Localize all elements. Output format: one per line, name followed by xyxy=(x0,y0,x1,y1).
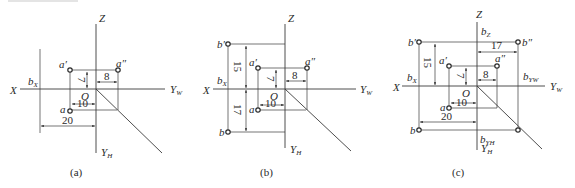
dim-7-label: 7 xyxy=(76,77,88,83)
b-double-prime-label: b″ xyxy=(522,36,533,48)
dim-10-label: 10 xyxy=(456,96,468,108)
dim-7-label: 7 xyxy=(455,73,467,79)
byw-label: bYW xyxy=(523,70,539,84)
point-b xyxy=(417,128,421,132)
caption-c: (c) xyxy=(452,166,465,179)
a-label: a xyxy=(249,103,255,115)
bx-label: bX xyxy=(28,75,39,89)
bz-label: bZ xyxy=(481,25,491,39)
a-prime-label: a′ xyxy=(439,54,448,66)
point-b-diagonal xyxy=(516,128,520,132)
dim-7-label: 7 xyxy=(265,76,277,82)
diagonal-45-line xyxy=(96,89,162,153)
dim-8-label: 8 xyxy=(483,68,489,80)
point-b-prime xyxy=(226,42,230,46)
point-b-double-prime xyxy=(516,40,520,44)
x-axis-label: X xyxy=(202,84,211,96)
point-a-prime xyxy=(68,68,72,72)
a-double-prime-label: a″ xyxy=(495,52,506,64)
yh-axis-label: YH xyxy=(101,146,113,160)
dim-15-label: 15 xyxy=(232,61,244,73)
dim-17-label: 17 xyxy=(232,104,244,116)
panel-b: Z X YW YH O bX b′ a′ a″ a b 15 7 8 17 10… xyxy=(202,12,373,179)
diagonal-45-line xyxy=(285,89,351,151)
panel-c: Z X YW YH O bZ bX bYW bYH b′ b″ a′ a″ a … xyxy=(392,8,563,179)
z-axis-label: Z xyxy=(99,12,106,24)
b-prime-label: b′ xyxy=(408,36,417,48)
dim-10-label: 10 xyxy=(265,97,277,109)
caption-b: (b) xyxy=(260,166,273,179)
point-a xyxy=(68,109,72,113)
dim-20-label: 20 xyxy=(441,110,453,122)
z-axis-label: Z xyxy=(288,12,295,24)
dim-20-label: 20 xyxy=(62,114,74,126)
dim-10-label: 10 xyxy=(77,97,89,109)
a-double-prime-label: a″ xyxy=(305,55,316,67)
b-prime-label: b′ xyxy=(217,38,226,50)
panel-a: Z X YW YH O bX a′ a″ a 7 8 10 20 (a) xyxy=(9,12,183,179)
a-prime-label: a′ xyxy=(59,58,68,70)
b-label: b xyxy=(219,126,225,138)
yw-axis-label: YW xyxy=(170,83,183,97)
yw-axis-label: YW xyxy=(550,80,563,94)
point-b xyxy=(226,130,230,134)
b-label: b xyxy=(410,124,416,136)
point-a-prime xyxy=(447,64,451,68)
a-prime-label: a′ xyxy=(249,56,258,68)
yh-axis-label: YH xyxy=(290,143,302,157)
point-a xyxy=(256,108,260,112)
point-b-prime xyxy=(417,40,421,44)
bx-label: bX xyxy=(407,71,418,85)
z-axis-label: Z xyxy=(476,8,483,20)
a-double-prime-label: a″ xyxy=(116,57,127,69)
dim-17-label: 17 xyxy=(491,39,503,51)
yw-axis-label: YW xyxy=(360,83,373,97)
x-axis-label: X xyxy=(9,84,18,96)
x-axis-label: X xyxy=(392,81,401,93)
byh-label: bYH xyxy=(480,133,495,147)
dim-8-label: 8 xyxy=(292,69,298,81)
caption-a: (a) xyxy=(70,166,83,179)
dim-15-label: 15 xyxy=(422,57,434,69)
point-a-double-prime xyxy=(495,64,499,68)
three-view-projection-diagram: Z X YW YH O bX a′ a″ a 7 8 10 20 (a) xyxy=(0,0,575,188)
bx-label: bX xyxy=(217,74,228,88)
dim-8-label: 8 xyxy=(104,70,110,82)
